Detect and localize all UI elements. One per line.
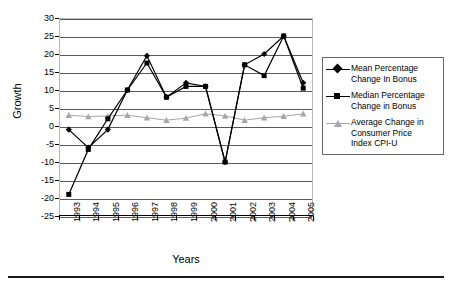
legend-marker [334, 93, 340, 99]
line-chart-figure: Growth 302520151050-5-10-15-20-25 Years … [0, 0, 452, 270]
y-axis-tick-mark [55, 54, 59, 55]
x-axis-tick-label: 2000 [210, 202, 219, 222]
y-axis-tick-mark [55, 36, 59, 37]
legend-item: Median PercentageChange in Bonus [325, 90, 440, 111]
y-axis-tick-label: -25 [20, 212, 54, 221]
legend-item-label: Average Change inConsumer PriceIndex CPI… [351, 117, 424, 149]
legend-item-label: Median PercentageChange in Bonus [351, 90, 425, 111]
data-point-marker [262, 73, 267, 78]
y-axis-tick-mark [55, 180, 59, 181]
series-triangle [66, 111, 307, 123]
data-point-marker [144, 61, 149, 66]
x-axis-title: Years [59, 253, 313, 265]
triangle-marker [325, 118, 351, 129]
y-axis-tick-labels: 302520151050-5-10-15-20-25 [20, 10, 54, 225]
x-axis-tick-label: 1998 [170, 202, 179, 222]
y-axis-tick-label: 10 [20, 86, 54, 95]
y-axis-tick-label: -20 [20, 194, 54, 203]
y-axis-tick-label: 0 [20, 122, 54, 131]
series-diamond [66, 33, 307, 165]
series-layer [59, 18, 313, 216]
y-axis-tick-label: -15 [20, 176, 54, 185]
x-axis-tick-label: 1994 [92, 202, 101, 222]
y-axis-tick-label: 15 [20, 68, 54, 77]
x-axis-tick-label: 2005 [307, 202, 316, 222]
data-point-marker [301, 86, 306, 91]
y-axis-tick-label: -5 [20, 140, 54, 149]
diamond-marker [325, 64, 351, 75]
x-axis-tick-label: 1999 [190, 202, 199, 222]
x-axis-tick-label: 2004 [288, 202, 297, 222]
y-axis-tick-label: 30 [20, 14, 54, 23]
data-point-marker [66, 192, 71, 197]
y-axis-tick-label: 25 [20, 32, 54, 41]
y-axis-tick-mark [55, 72, 59, 73]
y-axis-tick-mark [55, 162, 59, 163]
y-axis-tick-mark [55, 126, 59, 127]
legend-marker [333, 64, 343, 74]
y-axis-tick-mark [55, 90, 59, 91]
x-axis-tick-label: 1993 [73, 202, 82, 222]
data-point-marker [144, 53, 150, 59]
y-axis-tick-label: -10 [20, 158, 54, 167]
data-point-marker [202, 111, 208, 117]
data-point-marker [300, 111, 306, 117]
y-axis-tick-mark [55, 18, 59, 19]
x-axis-tick-label: 2003 [268, 202, 277, 222]
y-axis-tick-mark [55, 108, 59, 109]
legend-marker [334, 120, 342, 127]
legend-item-label: Mean PercentageChange In Bonus [351, 63, 418, 84]
x-axis-tick-label: 1995 [112, 202, 121, 222]
x-axis-tick-mark [59, 216, 60, 220]
y-axis-tick-label: 20 [20, 50, 54, 59]
legend-item: Mean PercentageChange In Bonus [325, 63, 440, 84]
x-axis-tick-label: 1996 [131, 202, 140, 222]
data-point-marker [300, 80, 306, 86]
chart-legend: Mean PercentageChange In BonusMedian Per… [322, 57, 444, 155]
data-point-marker [105, 116, 110, 121]
chart-page: Growth 302520151050-5-10-15-20-25 Years … [0, 0, 452, 288]
x-axis-tick-label: 1997 [151, 202, 160, 222]
y-axis-tick-mark [55, 198, 59, 199]
square-marker [325, 91, 351, 102]
x-axis-tick-label: 2001 [229, 202, 238, 222]
bottom-divider [8, 276, 444, 278]
y-axis-tick-label: 5 [20, 104, 54, 113]
x-axis-tick-label: 2002 [249, 202, 258, 222]
y-axis-tick-mark [55, 144, 59, 145]
legend-item: Average Change inConsumer PriceIndex CPI… [325, 117, 440, 149]
